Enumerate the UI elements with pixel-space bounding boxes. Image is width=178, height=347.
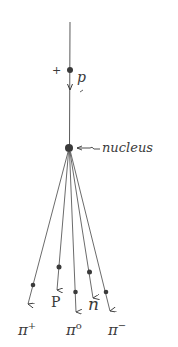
charge-label: +	[52, 64, 61, 77]
proton-dot	[67, 67, 73, 73]
svg-text:π+: π+	[17, 320, 36, 339]
track-neutron	[70, 152, 93, 298]
nucleus-label: nucleus	[102, 140, 153, 155]
product-dots	[31, 265, 109, 295]
nucleus: nucleus	[65, 140, 153, 155]
track-pi-minus	[71, 152, 111, 311]
incoming-proton-label: p	[77, 69, 86, 85]
track-pi-zero	[70, 152, 77, 312]
proton-product-label: P	[51, 294, 60, 310]
incoming-proton-track: + p	[52, 22, 86, 148]
pointer-arrow-icon	[77, 146, 100, 150]
svg-text:πo: πo	[65, 320, 82, 339]
label-mark	[80, 90, 83, 92]
pion-labels: π+ πo π−	[17, 320, 126, 339]
collision-diagram: + p nucleus P n π+ πo π−	[0, 0, 178, 347]
svg-text:π−: π−	[107, 320, 126, 339]
neutron-product-label: n	[88, 294, 99, 314]
product-tracks	[28, 152, 110, 312]
